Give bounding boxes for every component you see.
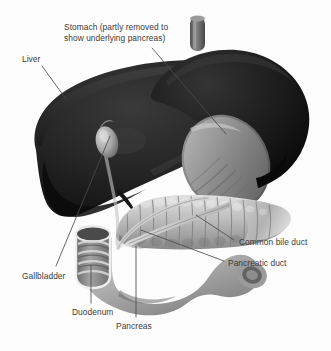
label-gallbladder: Gallbladder — [22, 271, 65, 282]
esophagus-stub — [190, 16, 205, 52]
label-pancreas: Pancreas — [116, 321, 152, 332]
label-pancreatic-duct: Pancreatic duct — [228, 258, 286, 269]
anatomy-illustration — [0, 0, 331, 351]
label-common-bile-duct: Common bile duct — [239, 237, 307, 248]
illustration-page: Stomach (partly removed to show underlyi… — [0, 0, 331, 351]
label-duodenum: Duodenum — [72, 307, 113, 318]
leader-line-liver — [42, 66, 66, 99]
label-liver: Liver — [22, 54, 40, 65]
duodenum-cut-segment — [76, 226, 110, 288]
label-stomach: Stomach (partly removed to show underlyi… — [64, 22, 168, 43]
